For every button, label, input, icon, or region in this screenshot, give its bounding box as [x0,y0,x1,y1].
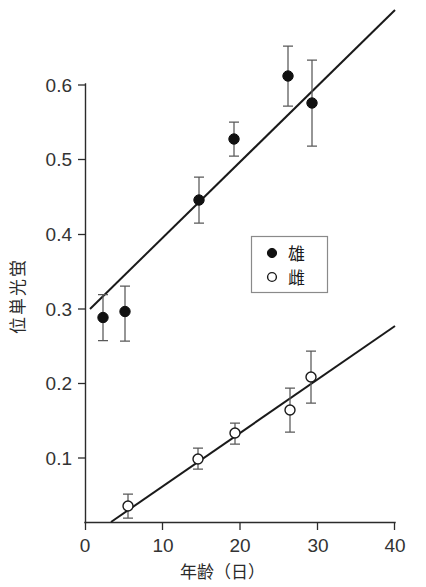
x-tick-label-40: 40 [384,535,405,556]
y-tick-label-0.2: 0.2 [46,373,72,394]
axis-lines [85,84,395,523]
data-point-female-5 [306,351,316,403]
data-point-male-6 [307,60,317,146]
y-axis-title: 蛍 光 単 位 [8,260,28,334]
marker-open-circle [123,501,133,511]
fit-line-female [111,326,395,522]
data-point-male-2 [120,286,130,341]
legend-label-female: 雌 [288,268,305,288]
y-axis-title-char-2: 光 [8,279,28,296]
y-axis-ticks [78,85,86,458]
x-tick-label-10: 10 [152,535,173,556]
y-tick-label-0.5: 0.5 [46,149,72,170]
y-tick-labels: 0.6 0.5 0.4 0.3 0.2 0.1 [46,75,73,469]
marker-filled-circle [120,306,130,316]
marker-filled-circle [194,195,204,205]
legend-label-male: 雄 [288,244,305,264]
x-tick-labels: 0 10 20 30 40 [80,535,406,556]
figure-container: 0.6 0.5 0.4 0.3 0.2 0.1 0 10 20 30 40 [0,0,426,587]
marker-open-circle [193,454,203,464]
legend: 雄 雌 [252,237,328,293]
data-point-female-3 [230,423,240,444]
data-point-female-1 [123,494,133,518]
marker-open-circle [306,372,316,382]
x-tick-label-30: 30 [307,535,328,556]
legend-marker-filled-circle [267,248,276,257]
data-point-female-2 [193,448,203,469]
marker-filled-circle [229,134,239,144]
x-axis-title: 年齢（日） [180,562,265,582]
x-tick-label-0: 0 [80,535,91,556]
marker-open-circle [285,405,295,415]
data-point-male-4 [229,122,239,156]
y-axis-title-char-1: 蛍 [8,260,28,277]
y-axis-title-char-4: 位 [8,317,28,334]
y-tick-label-0.6: 0.6 [46,75,72,96]
marker-filled-circle [307,98,317,108]
marker-filled-circle [98,312,108,322]
scatter-plot: 0.6 0.5 0.4 0.3 0.2 0.1 0 10 20 30 40 [0,0,426,587]
y-axis-title-char-3: 単 [8,298,28,315]
y-tick-label-0.3: 0.3 [46,299,72,320]
marker-filled-circle [283,71,293,81]
x-tick-label-20: 20 [229,535,250,556]
fit-line-male [90,10,395,309]
data-point-male-5 [283,46,293,106]
data-point-male-3 [194,177,204,223]
data-point-female-4 [285,388,295,432]
y-tick-label-0.4: 0.4 [46,224,73,245]
legend-marker-open-circle [268,273,277,282]
data-point-male-1 [98,295,108,341]
y-tick-label-0.1: 0.1 [46,448,72,469]
x-axis-ticks [86,523,395,531]
marker-open-circle [230,428,240,438]
